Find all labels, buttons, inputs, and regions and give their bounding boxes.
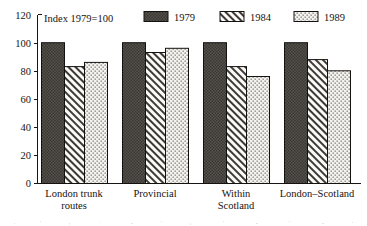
bar-1979-provincial[interactable] <box>123 43 146 184</box>
legend-item-1989[interactable]: 1989 <box>294 12 345 24</box>
x-axis-category-labels: London trunk routes Provincial Within Sc… <box>45 188 355 211</box>
bar-group-provincial <box>123 43 189 184</box>
bar-1989-provincial[interactable] <box>166 48 189 183</box>
category-label-within-scotland: Within Scotland <box>218 188 255 211</box>
swatch-1984-diagonal-hatch <box>220 12 244 22</box>
legend-label-1979: 1979 <box>174 12 195 23</box>
swatch-1989-sparse-dots <box>294 12 318 22</box>
legend: 1979 1984 1989 <box>144 12 345 24</box>
y-tick-label-60: 60 <box>21 94 32 105</box>
y-tick-label-80: 80 <box>21 66 32 77</box>
bar-group-london-scotland <box>285 43 351 184</box>
y-tick-label-100: 100 <box>15 38 31 49</box>
category-label-provincial: Provincial <box>133 188 176 199</box>
chart-canvas: 0 20 40 60 80 100 120 Index 1979=100 197… <box>0 0 367 226</box>
bar-1979-london-trunk-routes[interactable] <box>42 43 65 184</box>
bar-1989-within-scotland[interactable] <box>247 77 270 184</box>
bar-1979-within-scotland[interactable] <box>204 43 227 184</box>
legend-item-1984[interactable]: 1984 <box>220 12 272 24</box>
y-axis-ticks <box>34 44 38 184</box>
y-axis: 0 20 40 60 80 100 120 <box>15 10 42 189</box>
category-label-line-1: London–Scotland <box>280 188 355 199</box>
category-label-line-2: routes <box>61 200 87 211</box>
y-tick-label-40: 40 <box>21 122 32 133</box>
y-axis-tick-labels: 0 20 40 60 80 100 120 <box>15 10 31 189</box>
bar-chart: 0 20 40 60 80 100 120 Index 1979=100 197… <box>0 0 367 226</box>
y-tick-label-20: 20 <box>21 150 32 161</box>
category-label-line-1: Within <box>222 188 251 199</box>
category-label-london-scotland: London–Scotland <box>280 188 355 199</box>
y-tick-label-120: 120 <box>15 10 31 21</box>
y-tick-label-0: 0 <box>26 178 31 189</box>
category-label-line-2: Scotland <box>218 200 255 211</box>
legend-label-1984: 1984 <box>250 12 272 23</box>
bar-group-london-trunk-routes <box>42 43 108 184</box>
bar-group-within-scotland <box>204 43 270 184</box>
swatch-1979-dark-stipple <box>144 12 168 22</box>
legend-label-1989: 1989 <box>324 12 345 23</box>
category-label-line-1: London trunk <box>45 188 103 199</box>
bar-1984-london-scotland[interactable] <box>308 60 328 184</box>
index-annotation: Index 1979=100 <box>44 13 113 24</box>
legend-item-1979[interactable]: 1979 <box>144 12 195 24</box>
bar-1984-london-trunk-routes[interactable] <box>65 67 85 184</box>
category-label-london-trunk-routes: London trunk routes <box>45 188 103 211</box>
bar-1984-within-scotland[interactable] <box>227 67 247 184</box>
category-label-line-1: Provincial <box>133 188 176 199</box>
bar-1979-london-scotland[interactable] <box>285 43 308 184</box>
bar-1984-provincial[interactable] <box>146 53 166 184</box>
bar-1989-london-scotland[interactable] <box>328 71 351 184</box>
bar-1989-london-trunk-routes[interactable] <box>85 62 108 183</box>
